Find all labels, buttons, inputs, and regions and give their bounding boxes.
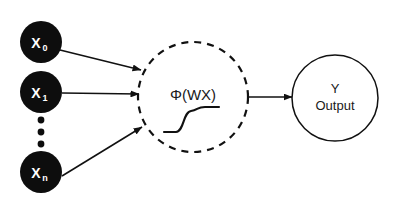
input-node-xn[interactable]: X n [20, 151, 62, 193]
activation-unit-label: Φ(WX) [170, 86, 216, 103]
output-node-line1: Y [331, 81, 340, 96]
input-node-xn-subscript: n [42, 173, 48, 183]
input-node-x0-base: X [31, 35, 41, 51]
edge-xn-to-activation [62, 127, 142, 176]
input-node-x1-subscript: 1 [42, 93, 47, 103]
input-node-x1[interactable]: X 1 [20, 71, 62, 113]
input-node-x0-circle [20, 21, 62, 63]
activation-unit[interactable]: Φ(WX) [138, 42, 248, 152]
edge-x1-to-activation [62, 93, 139, 94]
ellipsis-dot [38, 141, 45, 148]
diagram-canvas: X 0 X 1 X n Φ(WX) Y [0, 0, 398, 205]
edge-x0-to-activation [60, 50, 141, 70]
vertical-ellipsis-icon [38, 117, 45, 148]
output-node[interactable]: Y Output [292, 55, 378, 141]
neuron-diagram: X 0 X 1 X n Φ(WX) Y [0, 0, 398, 205]
input-node-x1-circle [20, 71, 62, 113]
ellipsis-dot [38, 129, 45, 136]
input-node-x0-subscript: 0 [42, 43, 47, 53]
input-node-x1-base: X [31, 85, 41, 101]
output-node-line2: Output [315, 98, 354, 113]
ellipsis-dot [38, 117, 45, 124]
sigmoid-curve-icon [164, 107, 219, 132]
input-node-x0[interactable]: X 0 [20, 21, 62, 63]
input-node-xn-base: X [31, 165, 41, 181]
input-node-xn-circle [20, 151, 62, 193]
